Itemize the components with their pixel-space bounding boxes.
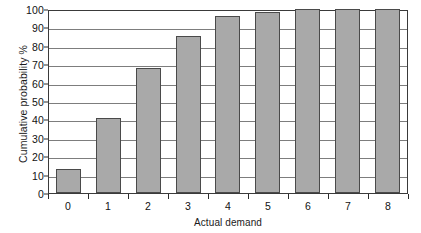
y-tick-label: 100 bbox=[12, 4, 44, 16]
bar-chart-figure: Cumulative probability % 010203040506070… bbox=[0, 0, 421, 233]
x-axis-tick-labels: 012345678 bbox=[48, 200, 408, 216]
y-tick-label: 80 bbox=[12, 41, 44, 53]
x-tick-mark bbox=[288, 194, 289, 199]
bar bbox=[335, 9, 360, 193]
y-tick-label: 20 bbox=[12, 151, 44, 163]
x-tick-mark bbox=[208, 194, 209, 199]
x-tick-label: 1 bbox=[96, 200, 121, 216]
y-tick-label: 70 bbox=[12, 59, 44, 71]
bar bbox=[215, 16, 240, 193]
x-axis-title: Actual demand bbox=[48, 217, 408, 228]
x-tick-label: 2 bbox=[136, 200, 161, 216]
x-tick-mark bbox=[328, 194, 329, 199]
y-tick-label: 50 bbox=[12, 96, 44, 108]
plot-area bbox=[48, 10, 408, 194]
x-tick-label: 5 bbox=[256, 200, 281, 216]
x-tick-mark bbox=[408, 194, 409, 199]
bar bbox=[375, 9, 400, 193]
y-tick-label: 60 bbox=[12, 78, 44, 90]
y-tick-label: 30 bbox=[12, 133, 44, 145]
y-tick-label: 0 bbox=[12, 188, 44, 200]
x-tick-label: 7 bbox=[336, 200, 361, 216]
y-tick-label: 90 bbox=[12, 22, 44, 34]
x-tick-label: 8 bbox=[376, 200, 401, 216]
bar bbox=[176, 36, 201, 193]
x-tick-label: 6 bbox=[296, 200, 321, 216]
x-tick-label: 4 bbox=[216, 200, 241, 216]
x-tick-label: 0 bbox=[56, 200, 81, 216]
bar bbox=[56, 169, 81, 193]
x-tick-mark bbox=[248, 194, 249, 199]
x-tick-label: 3 bbox=[176, 200, 201, 216]
bar bbox=[96, 118, 121, 193]
x-tick-mark bbox=[368, 194, 369, 199]
y-tick-label: 10 bbox=[12, 170, 44, 182]
y-axis-tick-labels: 0102030405060708090100 bbox=[12, 0, 44, 233]
x-tick-mark bbox=[168, 194, 169, 199]
bar bbox=[136, 68, 161, 193]
bar bbox=[255, 12, 280, 193]
x-tick-mark bbox=[88, 194, 89, 199]
bar-series bbox=[49, 11, 407, 193]
y-tick-label: 40 bbox=[12, 114, 44, 126]
x-tick-mark bbox=[48, 194, 49, 199]
bar bbox=[295, 9, 320, 193]
x-tick-mark bbox=[128, 194, 129, 199]
